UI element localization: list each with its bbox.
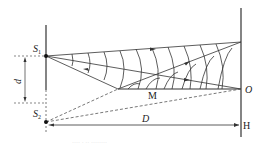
ray-arrow-icon bbox=[83, 68, 89, 71]
label-s2: S2 bbox=[33, 108, 41, 120]
label-D: D bbox=[141, 113, 150, 124]
ray-arrow-icon bbox=[184, 61, 190, 66]
label-d: d bbox=[12, 78, 23, 84]
source-s1-point bbox=[44, 54, 48, 58]
ray-arrow-icon bbox=[184, 78, 190, 82]
label-s1: S1 bbox=[33, 43, 41, 55]
source-s2-point bbox=[44, 120, 48, 124]
figure-caption: ···· · ·· ········ bbox=[72, 139, 107, 145]
double-slit-diagram: S1 S2 d D M O H ···· · ·· ········ bbox=[0, 0, 260, 147]
label-H: H bbox=[243, 120, 250, 131]
label-O: O bbox=[245, 84, 252, 95]
wave-fan-s1 bbox=[46, 42, 241, 89]
label-M: M bbox=[148, 90, 157, 101]
